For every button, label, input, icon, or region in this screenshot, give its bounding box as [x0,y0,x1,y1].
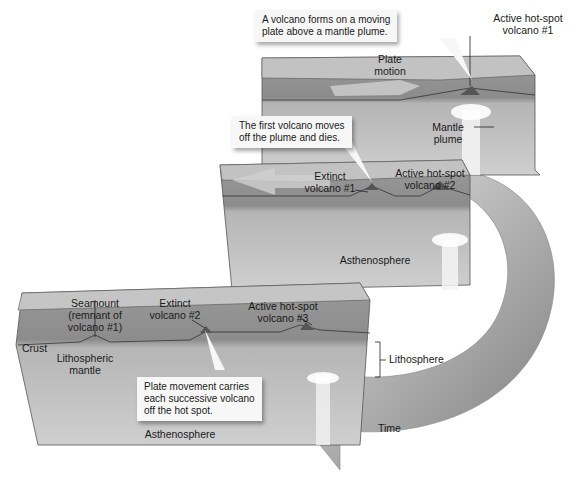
active-volcano-2-label: Active hot-spot volcano #2 [385,167,475,191]
lithosphere-label: Lithosphere [389,353,444,365]
seamount-label: Seamount (remnant of volcano #1) [55,297,135,333]
callout-line: plate above a mantle plume. [262,26,390,38]
stage-2-callout: The first volcano moves off the plume an… [232,116,352,148]
diagram-graphics [0,0,579,493]
mantle-plume-label: Mantle plume [423,121,473,145]
hot-spot-diagram: A volcano forms on a moving plate above … [0,0,579,493]
active-volcano-3-label: Active hot-spot volcano #3 [238,300,328,324]
stage-1-callout: A volcano forms on a moving plate above … [255,10,397,42]
callout-line: Plate movement carries [144,381,255,393]
callout-line: The first volcano moves [239,120,345,132]
callout-line: off the hot spot. [144,405,255,417]
extinct-volcano-2-label: Extinct volcano #2 [140,297,210,321]
crust-label: Crust [22,342,47,354]
lithospheric-mantle-label: Lithospheric mantle [45,352,125,376]
callout-line: off the plume and dies. [239,132,345,144]
time-label: Time [378,422,401,434]
callout-line: A volcano forms on a moving [262,14,390,26]
asthenosphere-label-3: Asthenosphere [130,428,230,440]
asthenosphere-label-2: Asthenosphere [325,254,425,266]
stage-3-callout: Plate movement carries each successive v… [137,377,262,421]
callout-line: each successive volcano [144,393,255,405]
extinct-volcano-1-label: Extinct volcano #1 [300,170,360,194]
plate-motion-label: Plate motion [365,53,415,77]
active-volcano-1-label: Active hot-spot volcano #1 [478,12,578,36]
